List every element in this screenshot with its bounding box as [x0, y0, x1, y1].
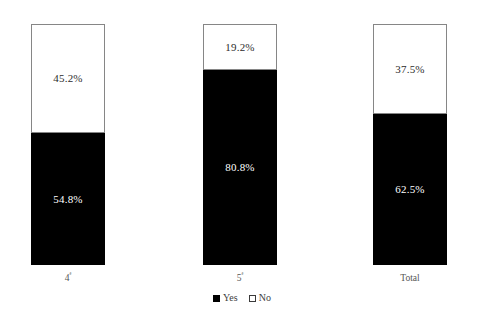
- category-label-2: 5ª: [203, 273, 277, 283]
- legend-label-yes: Yes: [223, 293, 238, 303]
- stacked-bar-chart: 45.2% 54.8% 4ª 19.2% 80.8% 5ª: [0, 0, 484, 317]
- bar-segment-label-yes-3: 62.5%: [395, 184, 424, 195]
- bar-segment-no-1[interactable]: 45.2%: [31, 24, 105, 133]
- category-label-sup-2: ª: [241, 271, 243, 278]
- bar-segment-yes-2[interactable]: 80.8%: [203, 70, 277, 265]
- bar-stack-1: 45.2% 54.8%: [31, 24, 105, 265]
- legend-item-yes[interactable]: Yes: [213, 293, 238, 303]
- bar-segment-no-3[interactable]: 37.5%: [373, 24, 447, 114]
- category-label-base-3: Total: [400, 273, 419, 283]
- legend-label-no: No: [259, 293, 271, 303]
- bar-segment-yes-3[interactable]: 62.5%: [373, 114, 447, 265]
- hollow-square-icon: [249, 295, 256, 302]
- bar-segment-label-no-2: 19.2%: [225, 42, 254, 53]
- bar-stack-3: 37.5% 62.5%: [373, 24, 447, 265]
- category-label-3: Total: [373, 273, 447, 283]
- bar-segment-yes-1[interactable]: 54.8%: [31, 133, 105, 265]
- chart-legend: Yes No: [0, 293, 484, 303]
- plot-area: 45.2% 54.8% 4ª 19.2% 80.8% 5ª: [0, 0, 484, 290]
- bar-segment-label-no-3: 37.5%: [395, 64, 424, 75]
- legend-item-no[interactable]: No: [249, 293, 271, 303]
- bar-stack-2: 19.2% 80.8%: [203, 24, 277, 265]
- filled-square-icon: [213, 295, 220, 302]
- bar-segment-label-no-1: 45.2%: [53, 73, 82, 84]
- bar-segment-label-yes-2: 80.8%: [225, 162, 254, 173]
- bar-segment-no-2[interactable]: 19.2%: [203, 24, 277, 70]
- category-label-1: 4ª: [31, 273, 105, 283]
- category-label-sup-1: ª: [69, 271, 71, 278]
- bar-segment-label-yes-1: 54.8%: [53, 194, 82, 205]
